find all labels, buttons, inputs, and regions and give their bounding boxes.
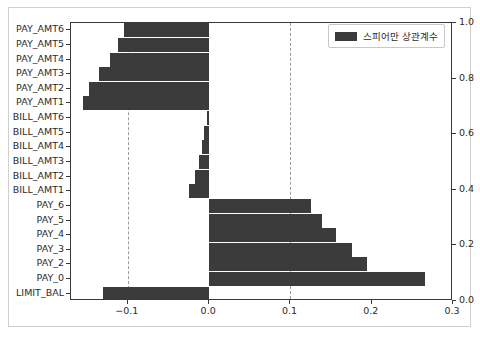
bar-pay_2 [209,257,367,271]
right-tick-label-1: 0.2 [459,238,474,249]
x-tick-mark [289,300,290,304]
bar-row [71,243,451,257]
right-tick-label-0: 0.0 [459,294,474,305]
x-tick-label-3: 0.2 [346,305,396,316]
bar-bill_amt2 [195,170,209,184]
bar-row [71,111,451,125]
bar-row [71,96,451,110]
right-tick-label-4: 0.8 [459,72,474,83]
bar-pay_5 [209,214,322,228]
bar-pay_3 [209,243,352,257]
bar-pay_0 [209,272,424,286]
bar-row [71,257,451,271]
bar-pay_amt5 [118,38,209,52]
right-tick-mark [452,78,456,79]
bar-row [71,170,451,184]
x-tick-mark [127,300,128,304]
x-tick-label-1: 0.0 [183,305,233,316]
bar-bill_amt1 [189,184,209,198]
right-tick-mark [452,300,456,301]
bar-row [71,214,451,228]
bar-pay_amt6 [124,23,209,37]
x-tick-label-4: 0.3 [427,305,477,316]
bar-pay_4 [209,228,336,242]
legend-swatch-spearman [335,32,357,41]
figure-canvas: PAY_AMT6PAY_AMT5PAY_AMT4PAY_AMT3PAY_AMT2… [0,0,480,337]
bar-pay_amt3 [99,67,209,81]
bar-pay_6 [209,199,311,213]
bar-bill_amt5 [204,126,209,140]
bar-row [71,199,451,213]
bar-row [71,228,451,242]
bar-pay_amt1 [83,96,209,110]
right-tick-label-3: 0.6 [459,127,474,138]
legend-label-spearman: 스피어만 상관계수 [363,29,438,43]
x-tick-mark [208,300,209,304]
bar-row [71,272,451,286]
right-tick-label-5: 1.0 [459,16,474,27]
bar-row [71,126,451,140]
bar-row [71,82,451,96]
right-tick-mark [452,22,456,23]
bar-row [71,53,451,67]
right-tick-mark [452,189,456,190]
right-tick-mark [452,133,456,134]
x-tick-label-2: 0.1 [264,305,314,316]
bar-bill_amt6 [207,111,209,125]
bar-row [71,287,451,299]
right-tick-label-2: 0.4 [459,183,474,194]
bar-limit_bal [103,287,209,299]
plot-area [70,22,452,300]
bar-row [71,155,451,169]
legend: 스피어만 상관계수 [328,24,445,48]
plot-inner [71,23,451,299]
x-tick-label-0: −0.1 [102,305,152,316]
bar-bill_amt3 [199,155,210,169]
bar-bill_amt4 [202,140,209,154]
bar-row [71,184,451,198]
bar-row [71,140,451,154]
bar-pay_amt4 [110,53,209,67]
right-tick-mark [452,244,456,245]
bar-pay_amt2 [89,82,209,96]
x-tick-mark [371,300,372,304]
bar-row [71,67,451,81]
